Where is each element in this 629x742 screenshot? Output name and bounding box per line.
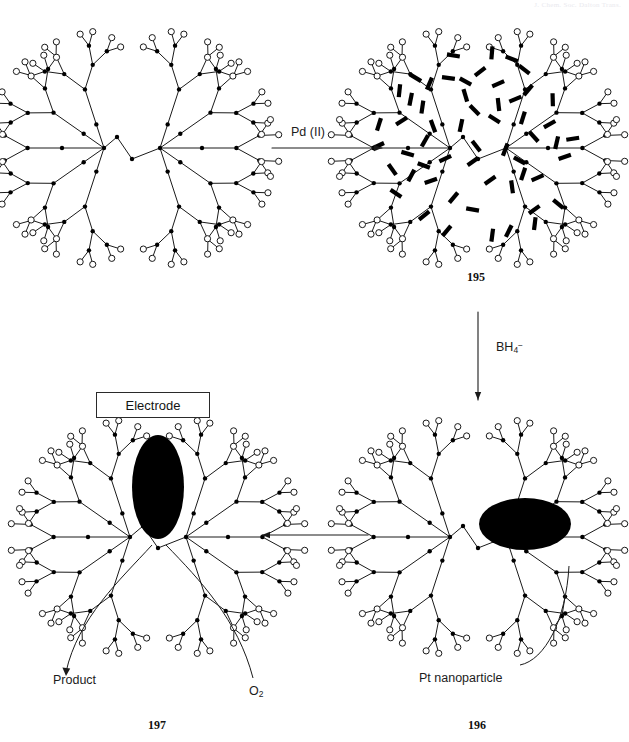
compound-number-197: 197 — [148, 718, 166, 733]
arrow-bh4 — [475, 312, 481, 400]
arrow-group — [262, 145, 481, 538]
nanoparticle — [132, 435, 184, 539]
reagent-label-bh4: BH4− — [496, 340, 523, 355]
bh4-base: BH — [496, 340, 513, 354]
electrode-bound-dendrimer — [8, 418, 308, 657]
pd-rods — [371, 46, 579, 242]
pt-nanoparticle-dendrimer — [328, 418, 628, 657]
arrow-pd — [272, 145, 382, 151]
oxygen-subscript: 2 — [259, 689, 264, 699]
dendrimer-group — [0, 29, 628, 657]
product-label: Product — [53, 673, 96, 687]
bh4-superscript: − — [518, 340, 523, 350]
electrode-box: Electrode — [96, 392, 210, 418]
arrow-to-electrode — [262, 532, 368, 538]
pt-nanoparticle-label: Pt nanoparticle — [419, 671, 502, 685]
leader-line-group — [62, 545, 569, 678]
oxygen-flux-curve — [166, 545, 253, 678]
oxygen-base: O — [249, 684, 259, 698]
reaction-scheme-canvas — [0, 0, 629, 742]
compound-number-195: 195 — [467, 270, 485, 285]
unloaded-dendrimer — [0, 29, 282, 268]
electrode-label: Electrode — [126, 398, 181, 413]
reagent-label-pd: Pd (II) — [291, 125, 325, 139]
compound-number-196: 196 — [468, 718, 486, 733]
oxygen-label: O2 — [249, 684, 263, 699]
